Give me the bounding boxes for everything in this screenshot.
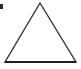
- corner-mark-artifact: [0, 4, 3, 9]
- triangle-figure: [0, 0, 81, 69]
- triangle-shape: [5, 3, 76, 62]
- figure-canvas: [0, 0, 81, 69]
